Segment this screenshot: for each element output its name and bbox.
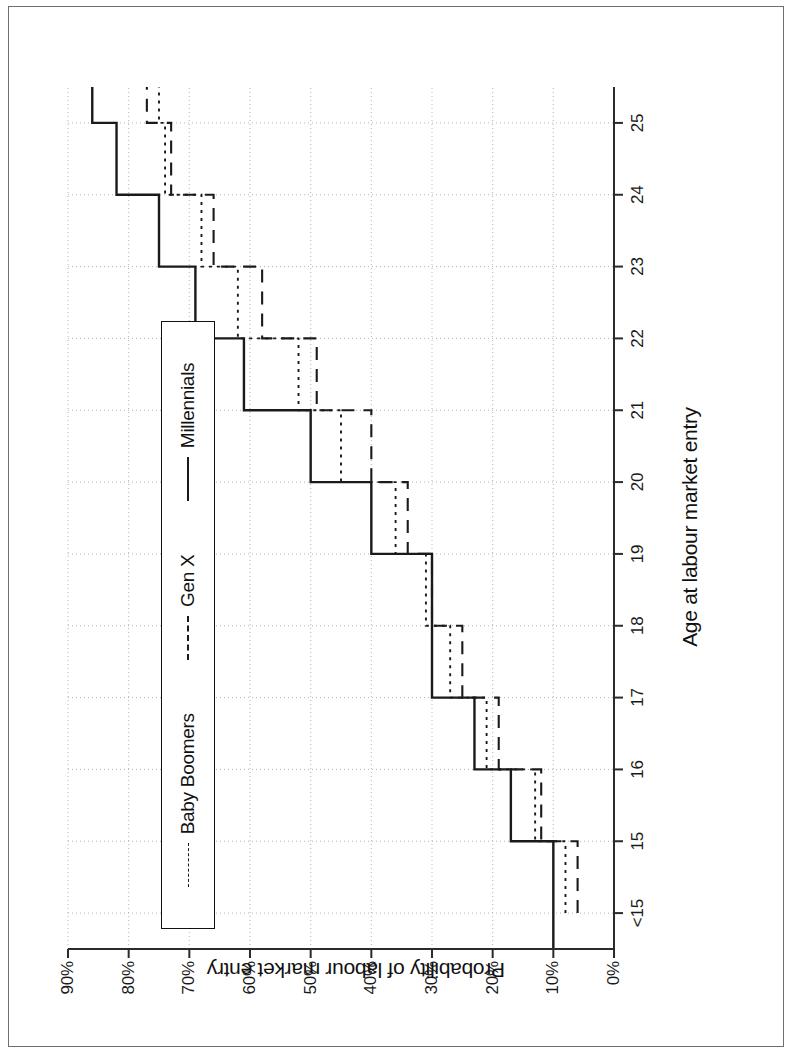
x-tick-label: 20: [628, 452, 648, 512]
y-axis-title: Probability of labour market entry: [36, 958, 676, 982]
legend-entry: Millennials: [177, 363, 199, 501]
legend-label: Millennials: [177, 363, 199, 448]
y-axis-title-wrapper: Probability of labour market entry: [341, 647, 371, 1055]
x-tick-label: 16: [628, 739, 648, 799]
x-tick-label: 15: [628, 811, 648, 871]
x-tick-label: 18: [628, 596, 648, 656]
legend-swatch-dotted-icon: [188, 843, 189, 887]
legend-label: Gen X: [177, 555, 199, 607]
legend-label: Baby Boomers: [177, 713, 199, 834]
x-tick-label: 17: [628, 668, 648, 728]
x-tick-label: <15: [628, 883, 648, 943]
x-tick-label: 23: [628, 237, 648, 297]
x-tick-label: 21: [628, 380, 648, 440]
x-tick-label: 25: [628, 93, 648, 153]
chart-page: <151516171819202122232425 0%10%20%30%40%…: [0, 0, 792, 1055]
legend: Baby BoomersGen XMillennials: [161, 321, 215, 929]
legend-entry: Baby Boomers: [177, 713, 199, 887]
legend-swatch-dashed-icon: [187, 616, 189, 660]
x-axis-title: Age at labour market entry: [678, 27, 702, 1027]
x-tick-label: 22: [628, 308, 648, 368]
x-tick-label: 24: [628, 165, 648, 225]
figure: <151516171819202122232425 0%10%20%30%40%…: [46, 27, 746, 1027]
legend-swatch-solid-icon: [187, 457, 189, 501]
legend-entry: Gen X: [177, 555, 199, 660]
x-tick-label: 19: [628, 524, 648, 584]
